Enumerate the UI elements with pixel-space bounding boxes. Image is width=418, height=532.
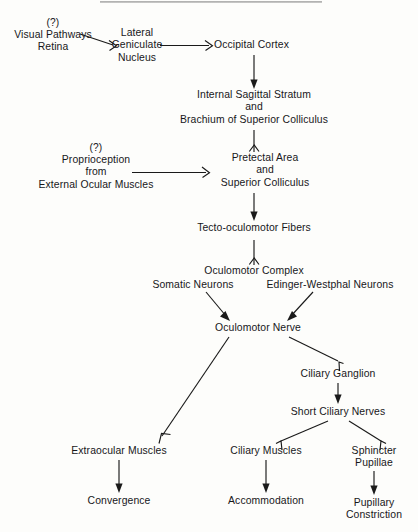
arrowhead-tecto — [250, 212, 257, 222]
arrowhead-convergence — [115, 484, 122, 494]
sphincter-label: Sphincter — [352, 445, 397, 457]
chevron-head-pretectal-left — [202, 167, 210, 178]
retina-label: Retina — [14, 41, 92, 53]
proprioception-from-label: from — [39, 166, 154, 178]
arrowhead-accommodation — [262, 484, 269, 494]
node-convergence: Convergence — [88, 495, 151, 507]
edge-edinger-to-nerve — [291, 292, 313, 316]
internal-sagittal-and-label: and — [180, 101, 328, 113]
node-occipital-cortex: Occipital Cortex — [214, 39, 289, 51]
nucleus-label: Nucleus — [112, 52, 163, 64]
arrowhead-short-ciliary — [334, 395, 341, 405]
extraocular-muscles-label: Extraocular Muscles — [71, 445, 166, 457]
barb-head-extraocular — [159, 434, 171, 444]
superior-colliculus-label: Superior Colliculus — [221, 177, 310, 189]
node-pupillary-constriction: Pupillary Constriction — [346, 497, 402, 522]
proprioception-question-mark: (?) — [39, 142, 154, 154]
ciliary-muscles-label: Ciliary Muscles — [230, 445, 301, 457]
arrowhead-sagittal — [250, 80, 257, 90]
edge-short-ciliary-to-sphincter — [349, 421, 381, 441]
oculomotor-complex-label: Oculomotor Complex — [204, 265, 303, 277]
visual-pathways-question-mark: (?) — [14, 17, 92, 29]
node-extraocular-muscles: Extraocular Muscles — [71, 445, 166, 457]
pupillary-label: Pupillary — [346, 497, 402, 509]
node-accommodation: Accommodation — [228, 495, 304, 507]
arrowhead-nerve-right — [287, 311, 297, 321]
chevron-head-complex — [249, 258, 259, 265]
tecto-oculomotor-fibers-label: Tecto-oculomotor Fibers — [197, 222, 311, 234]
edinger-westphal-neurons-label: Edinger-Westphal Neurons — [267, 279, 394, 291]
node-lateral-geniculate-nucleus: Lateral Geniculate Nucleus — [112, 27, 163, 64]
chevron-head-pretectal — [249, 145, 259, 152]
ciliary-ganglion-label: Ciliary Ganglion — [301, 368, 376, 380]
accommodation-label: Accommodation — [228, 495, 304, 507]
internal-sagittal-stratum-label: Internal Sagittal Stratum — [180, 89, 328, 101]
node-ciliary-muscles: Ciliary Muscles — [230, 445, 301, 457]
arrowhead-nerve-left — [220, 311, 230, 321]
pretectal-and-label: and — [221, 164, 310, 176]
occipital-cortex-label: Occipital Cortex — [214, 39, 289, 51]
oculomotor-nerve-label: Oculomotor Nerve — [215, 322, 301, 334]
geniculate-label: Geniculate — [112, 39, 163, 51]
node-oculomotor-complex: Oculomotor Complex — [204, 265, 303, 277]
proprioception-label: Proprioception — [39, 154, 154, 166]
edge-somatic-to-nerve — [206, 292, 226, 316]
node-sphincter-pupillae: Sphincter Pupillae — [352, 445, 397, 470]
node-somatic-neurons: Somatic Neurons — [152, 279, 233, 291]
scan-edge-artifact — [100, 1, 322, 3]
convergence-label: Convergence — [88, 495, 151, 507]
edge-nerve-to-ganglion — [289, 337, 338, 361]
brachium-superior-colliculus-label: Brachium of Superior Colliculus — [180, 114, 328, 126]
node-pretectal-area: Pretectal Area and Superior Colliculus — [221, 152, 310, 189]
edge-short-ciliary-to-ciliary-muscles — [281, 421, 328, 441]
somatic-neurons-label: Somatic Neurons — [152, 279, 233, 291]
flow-diagram-figure: (?) Visual Pathways Retina Lateral Genic… — [0, 0, 418, 532]
pretectal-area-label: Pretectal Area — [221, 152, 310, 164]
edge-nerve-to-extraocular — [162, 337, 229, 436]
external-ocular-muscles-label: External Ocular Muscles — [39, 179, 154, 191]
node-visual-pathways-retina: (?) Visual Pathways Retina — [14, 17, 92, 54]
pupillae-label: Pupillae — [352, 457, 397, 469]
constriction-label: Constriction — [346, 509, 402, 521]
node-proprioception: (?) Proprioception from External Ocular … — [39, 142, 154, 191]
arrowhead-pupillary — [370, 486, 377, 496]
chevron-head-occipital — [205, 41, 213, 51]
node-ciliary-ganglion: Ciliary Ganglion — [301, 368, 376, 380]
node-edinger-westphal-neurons: Edinger-Westphal Neurons — [267, 279, 394, 291]
node-internal-sagittal-stratum: Internal Sagittal Stratum and Brachium o… — [180, 89, 328, 126]
lateral-label: Lateral — [112, 27, 163, 39]
node-oculomotor-nerve: Oculomotor Nerve — [215, 322, 301, 334]
short-ciliary-nerves-label: Short Ciliary Nerves — [291, 406, 385, 418]
node-short-ciliary-nerves: Short Ciliary Nerves — [291, 406, 385, 418]
visual-pathways-label: Visual Pathways — [14, 29, 92, 41]
node-tecto-oculomotor-fibers: Tecto-oculomotor Fibers — [197, 222, 311, 234]
